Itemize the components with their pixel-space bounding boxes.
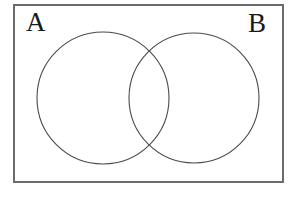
set-b-label: B — [248, 10, 266, 37]
set-a-label: A — [26, 9, 46, 36]
universal-set-rectangle — [14, 5, 283, 182]
venn-diagram-figure: A B — [0, 0, 295, 202]
